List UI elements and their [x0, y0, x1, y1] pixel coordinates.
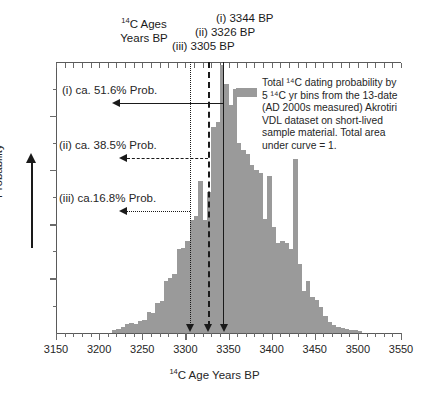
x-tick-major — [272, 333, 273, 340]
x-tick-minor — [263, 333, 264, 337]
top-axis-tick — [401, 63, 402, 68]
x-tick-minor — [289, 333, 290, 337]
x-tick-minor — [237, 333, 238, 337]
x-tick-minor — [306, 333, 307, 337]
probability-arrow-iii — [127, 211, 190, 212]
x-tick-minor — [177, 333, 178, 337]
x-tick-minor — [220, 333, 221, 337]
prob-label-i: (i) ca. 51.6% Prob. — [62, 84, 157, 96]
x-tick-minor — [211, 333, 212, 337]
x-tick-label: 3250 — [130, 343, 154, 355]
x-tick-minor — [392, 333, 393, 337]
vertical-marker-dashed — [208, 62, 210, 327]
x-axis-title-text: C Age Years BP — [178, 369, 260, 381]
y-axis-title: Probability — [0, 144, 4, 198]
probability-arrow-ii — [127, 158, 208, 159]
x-tick-major — [229, 333, 230, 340]
x-tick-label: 3200 — [87, 343, 111, 355]
x-tick-minor — [125, 333, 126, 337]
probability-arrowhead-icon-i — [112, 99, 120, 107]
vertical-marker-arrowhead-icon — [220, 324, 228, 332]
vertical-marker-dotted — [190, 62, 191, 327]
x-tick-minor — [246, 333, 247, 337]
x-tick-minor — [367, 333, 368, 337]
probability-arrowhead-icon-iii — [119, 207, 127, 215]
x-tick-label: 3150 — [44, 343, 68, 355]
vertical-marker-solid — [223, 62, 224, 327]
prob-label-iii: (iii) ca.16.8% Prob. — [59, 192, 156, 204]
x-tick-label: 3400 — [259, 343, 283, 355]
marker-value-ii: (ii) 3326 BP — [172, 25, 274, 39]
vertical-marker-arrowhead-icon — [204, 324, 212, 332]
x-tick-minor — [116, 333, 117, 337]
x-tick-major — [185, 333, 186, 340]
x-tick-minor — [298, 333, 299, 337]
x-tick-minor — [151, 333, 152, 337]
probability-arrow-i — [120, 103, 224, 104]
x-tick-major — [99, 333, 100, 340]
marker-value-iii: (iii) 3305 BP — [172, 39, 274, 53]
x-tick-minor — [341, 333, 342, 337]
x-tick-minor — [332, 333, 333, 337]
x-tick-minor — [91, 333, 92, 337]
x-tick-minor — [254, 333, 255, 337]
header-marker-values: (i) 3344 BP (ii) 3326 BP (iii) 3305 BP — [172, 11, 274, 53]
x-tick-minor — [134, 333, 135, 337]
x-tick-minor — [384, 333, 385, 337]
x-tick-major — [358, 333, 359, 340]
x-tick-label: 3500 — [346, 343, 370, 355]
probability-arrowhead-icon-ii — [119, 154, 127, 162]
c14-superscript-xaxis: 14 — [169, 367, 177, 376]
x-tick-minor — [73, 333, 74, 337]
x-tick-minor — [280, 333, 281, 337]
x-tick-major — [142, 333, 143, 340]
x-tick-minor — [375, 333, 376, 337]
header-ages-line1: C Ages — [130, 18, 167, 30]
histogram-bar — [358, 331, 362, 333]
prob-label-ii: (ii) ca. 38.5% Prob. — [59, 139, 157, 151]
x-tick-minor — [65, 333, 66, 337]
x-tick-minor — [168, 333, 169, 337]
radiocarbon-probability-chart: 14C Ages Years BP (i) 3344 BP (ii) 3326 … — [0, 0, 429, 397]
x-tick-minor — [349, 333, 350, 337]
x-tick-label: 3550 — [389, 343, 413, 355]
x-axis-title: 14C Age Years BP — [0, 367, 429, 381]
x-tick-label: 3350 — [216, 343, 240, 355]
y-axis-arrow-shaft — [31, 162, 33, 248]
x-tick-major — [401, 333, 402, 340]
x-tick-minor — [203, 333, 204, 337]
x-tick-minor — [194, 333, 195, 337]
x-tick-major — [56, 333, 57, 340]
marker-value-i: (i) 3344 BP — [172, 11, 274, 25]
x-tick-label: 3450 — [303, 343, 327, 355]
c14-superscript-header: 14 — [121, 16, 129, 25]
x-tick-minor — [323, 333, 324, 337]
vertical-marker-arrowhead-icon — [186, 324, 194, 332]
x-tick-minor — [108, 333, 109, 337]
x-tick-minor — [82, 333, 83, 337]
x-tick-major — [315, 333, 316, 340]
y-axis-arrow-head-icon — [26, 153, 36, 163]
x-tick-minor — [160, 333, 161, 337]
x-tick-label: 3300 — [173, 343, 197, 355]
